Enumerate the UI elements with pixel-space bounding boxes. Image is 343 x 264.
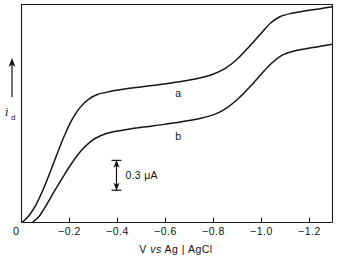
scale-bar: 0.3 μA	[112, 160, 158, 190]
x-axis-title-italic: vs	[150, 243, 162, 255]
curve-a	[23, 7, 333, 222]
x-tick-label-4: −0.8	[202, 225, 225, 237]
y-axis-label-subscript: d	[11, 113, 15, 122]
x-tick-label-6: −1.2	[298, 225, 321, 237]
y-axis-label-group: i d	[5, 58, 15, 122]
x-tick-label-2: −0.4	[106, 225, 129, 237]
x-axis-ticks	[70, 218, 310, 223]
curve-b	[33, 44, 333, 222]
svg-text:V vs Ag | AgCl: V vs Ag | AgCl	[139, 243, 212, 255]
origin-label: 0	[13, 225, 19, 237]
x-tick-label-5: −1.0	[250, 225, 273, 237]
scale-bar-label: 0.3 μA	[126, 169, 158, 181]
x-axis-title-post: Ag | AgCl	[162, 243, 213, 255]
x-tick-label-1: −0.2	[58, 225, 81, 237]
chart-canvas: −0.2−0.4−0.6−0.8−1.0−1.2 0 V vs Ag | AgC…	[0, 0, 343, 264]
curve-label-a: a	[175, 87, 181, 99]
y-axis-label-symbol: i	[5, 105, 8, 119]
x-axis-title-pre: V	[139, 243, 150, 255]
x-axis-tick-labels: −0.2−0.4−0.6−0.8−1.0−1.2	[58, 225, 321, 237]
curve-label-b: b	[175, 130, 181, 142]
x-axis-title: V vs Ag | AgCl	[139, 243, 212, 255]
x-tick-label-3: −0.6	[154, 225, 177, 237]
voltammogram-figure: −0.2−0.4−0.6−0.8−1.0−1.2 0 V vs Ag | AgC…	[0, 0, 343, 264]
